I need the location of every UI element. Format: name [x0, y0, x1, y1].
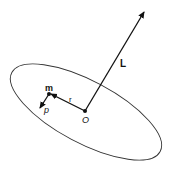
label-L: L [120, 58, 126, 69]
label-O: O [82, 115, 89, 125]
position-vector [51, 94, 85, 111]
angular-momentum-diagram: L m r p O [0, 0, 172, 177]
label-p: p [43, 105, 49, 115]
label-m: m [45, 83, 53, 93]
diagram-canvas: L m r p O [0, 0, 172, 177]
origin-point [83, 109, 87, 113]
label-r: r [69, 95, 72, 104]
angular-momentum-vector [85, 12, 144, 111]
